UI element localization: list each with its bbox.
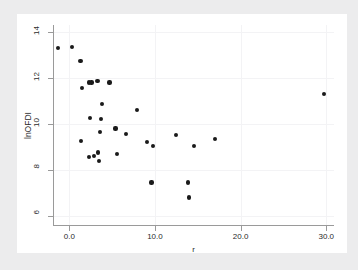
gridline-horizontal bbox=[53, 216, 334, 217]
data-point bbox=[149, 180, 153, 184]
gridline-vertical bbox=[326, 25, 327, 225]
data-point bbox=[113, 126, 117, 130]
data-point bbox=[78, 59, 82, 63]
gridline-horizontal bbox=[53, 170, 334, 171]
x-tick-label: 10.0 bbox=[135, 232, 175, 241]
x-axis-label: r bbox=[53, 245, 334, 254]
x-tick-mark bbox=[326, 226, 327, 231]
data-point bbox=[187, 195, 191, 199]
data-point bbox=[213, 137, 217, 141]
y-tick-mark bbox=[48, 124, 53, 125]
y-tick-mark bbox=[48, 170, 53, 171]
y-axis-line bbox=[53, 25, 54, 225]
y-tick-mark bbox=[48, 78, 53, 79]
data-point bbox=[107, 80, 111, 84]
y-tick-label: 6 bbox=[32, 210, 44, 214]
data-point bbox=[89, 80, 93, 84]
gridline-vertical bbox=[241, 25, 242, 225]
x-tick-label: 20.0 bbox=[221, 232, 261, 241]
data-point bbox=[70, 45, 74, 49]
x-tick-label: 0.0 bbox=[49, 232, 89, 241]
gridline-vertical bbox=[69, 25, 70, 225]
gridline-horizontal bbox=[53, 124, 334, 125]
y-tick-mark bbox=[48, 32, 53, 33]
y-tick-label: 8 bbox=[32, 164, 44, 168]
y-tick-mark bbox=[48, 216, 53, 217]
y-tick-label: 12 bbox=[32, 72, 44, 81]
x-axis-line bbox=[53, 225, 334, 226]
data-point bbox=[322, 92, 326, 96]
scatter-plot-figure: 68101214 0.010.020.030.0 lnOFDI r bbox=[0, 0, 358, 270]
gridline-vertical bbox=[155, 25, 156, 225]
plot-region bbox=[53, 25, 334, 225]
x-tick-mark bbox=[241, 226, 242, 231]
y-axis-label: lnOFDI bbox=[22, 96, 34, 156]
gridline-horizontal bbox=[53, 32, 334, 33]
y-tick-label: 14 bbox=[32, 26, 44, 35]
x-tick-label: 30.0 bbox=[306, 232, 346, 241]
x-tick-mark bbox=[155, 226, 156, 231]
x-tick-mark bbox=[69, 226, 70, 231]
